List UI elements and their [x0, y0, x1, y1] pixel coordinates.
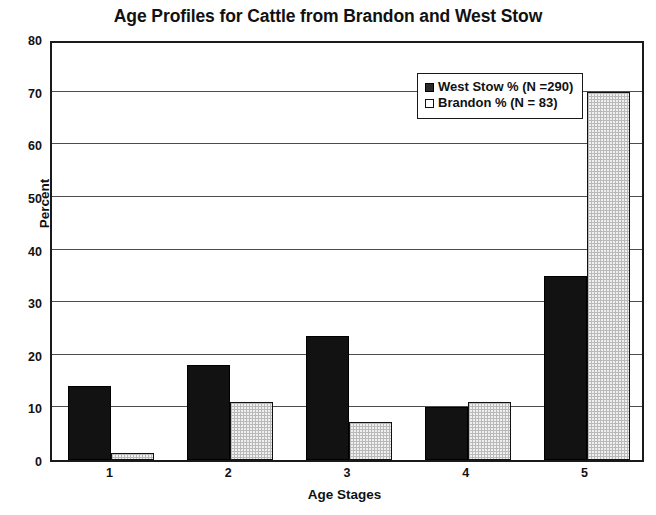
legend-label: West Stow % (N =290): [438, 80, 573, 95]
bar-brandon-stage-1[interactable]: [111, 453, 154, 460]
bar-west-stow-stage-2[interactable]: [187, 365, 230, 460]
legend-swatch-icon: [425, 83, 434, 92]
x-axis-tick-labels: 12345: [50, 466, 644, 486]
x-tick-label: 5: [581, 466, 588, 480]
x-axis-title: Age Stages: [44, 487, 645, 502]
bar-brandon-stage-5[interactable]: [587, 92, 630, 460]
chart-figure: Age Profiles for Cattle from Brandon and…: [0, 0, 656, 515]
chart-title: Age Profiles for Cattle from Brandon and…: [0, 6, 656, 27]
x-tick-label: 4: [462, 466, 469, 480]
y-tick-label: 80: [0, 34, 42, 48]
bar-brandon-stage-3[interactable]: [349, 422, 392, 460]
y-tick-label: 10: [0, 402, 42, 416]
bar-west-stow-stage-5[interactable]: [544, 276, 587, 460]
bar-west-stow-stage-4[interactable]: [425, 407, 468, 460]
x-tick-label: 3: [344, 466, 351, 480]
legend-item: Brandon % (N = 83): [425, 96, 573, 111]
y-tick-label: 30: [0, 297, 42, 311]
bar-west-stow-stage-3[interactable]: [306, 336, 349, 460]
x-tick-label: 1: [106, 466, 113, 480]
y-tick-label: 70: [0, 87, 42, 101]
bar-west-stow-stage-1[interactable]: [68, 386, 111, 460]
x-tick-label: 2: [225, 466, 232, 480]
bar-brandon-stage-2[interactable]: [230, 402, 273, 460]
y-axis-tick-labels: 01020304050607080: [0, 41, 44, 462]
y-tick-label: 60: [0, 139, 42, 153]
y-tick-label: 40: [0, 245, 42, 259]
y-tick-label: 20: [0, 350, 42, 364]
legend-item: West Stow % (N =290): [425, 80, 573, 95]
y-tick-label: 50: [0, 192, 42, 206]
y-tick-label: 0: [0, 455, 42, 469]
bar-group: [68, 43, 154, 460]
bar-group: [187, 43, 273, 460]
legend-label: Brandon % (N = 83): [438, 96, 558, 111]
bar-brandon-stage-4[interactable]: [468, 402, 511, 460]
chart-legend: West Stow % (N =290)Brandon % (N = 83): [417, 73, 583, 119]
legend-swatch-icon: [425, 99, 434, 108]
bar-group: [306, 43, 392, 460]
